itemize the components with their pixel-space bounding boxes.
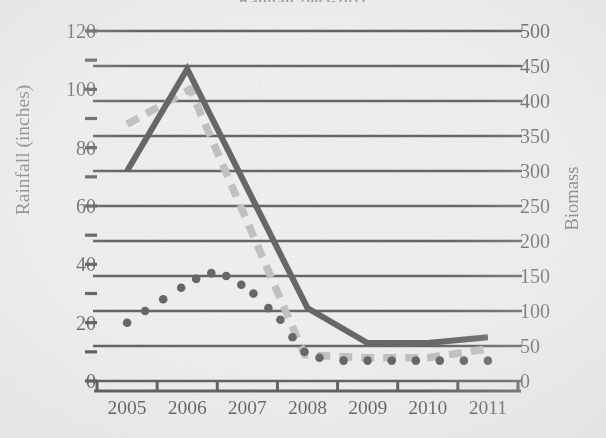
data-point-dot <box>288 333 297 342</box>
data-point-dot <box>363 356 372 365</box>
data-point-dot <box>222 272 231 281</box>
data-point-dot <box>177 283 186 292</box>
data-point-dot <box>315 353 324 362</box>
data-point-dot <box>387 356 396 365</box>
rainfall-biomass-chart: Rainfall 2005-2011 Rainfall (inches) Bio… <box>0 0 606 438</box>
data-point-dot <box>159 295 168 304</box>
data-point-dot <box>123 318 132 327</box>
data-point-dot <box>412 356 421 365</box>
data-point-dot <box>237 281 246 290</box>
data-point-dot <box>141 307 150 316</box>
data-point-dot <box>436 356 445 365</box>
data-point-dot <box>300 348 309 357</box>
data-point-dot <box>207 269 216 278</box>
data-point-dot <box>264 304 273 313</box>
plot-area <box>0 0 606 438</box>
data-point-dot <box>339 356 348 365</box>
data-point-dot <box>249 289 258 298</box>
data-point-dot <box>276 316 285 325</box>
data-point-dot <box>192 275 201 284</box>
data-point-dot <box>484 356 493 365</box>
data-point-dot <box>460 356 469 365</box>
series-black-dotted-line <box>123 269 492 365</box>
series-gray-dashed-line <box>127 89 488 357</box>
